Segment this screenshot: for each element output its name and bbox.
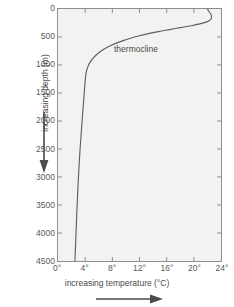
ocean-temperature-depth-chart: increasing depth (m) 0 500 1000 1500 200… [0,0,234,307]
y-axis-ticks [58,37,62,233]
x-axis-direction-arrow [96,291,164,303]
y-tick-label: 2500 [27,145,55,154]
y-tick-label: 500 [27,32,55,41]
top-axis-ticks [85,9,194,13]
x-axis-tick-labels: 0° 4° 8° 12° 16° 20° 24° [57,264,222,276]
y-tick-label: 3000 [27,173,55,182]
y-tick-label: 1000 [27,60,55,69]
y-tick-label: 1500 [27,88,55,97]
thermocline-annotation: thermocline [114,44,158,54]
x-axis-title: increasing temperature (°C) [0,278,234,288]
x-axis-ticks [85,257,194,261]
plot-area: thermocline [57,8,222,262]
x-tick-label: 24° [205,264,234,273]
y-tick-label: 0 [27,4,55,13]
y-tick-label: 3500 [27,201,55,210]
y-axis-tick-labels: 0 500 1000 1500 2000 2500 3000 3500 4000… [22,8,55,262]
y-tick-label: 2000 [27,116,55,125]
right-axis-ticks [217,37,221,233]
y-tick-label: 4000 [27,229,55,238]
